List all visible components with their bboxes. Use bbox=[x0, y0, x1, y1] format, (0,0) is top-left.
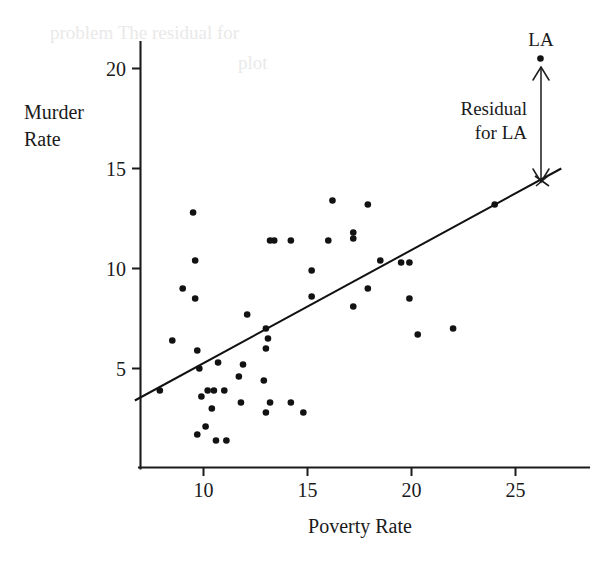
y-tick-label-20: 20 bbox=[106, 58, 126, 80]
data-point bbox=[537, 55, 544, 62]
data-point bbox=[325, 237, 332, 244]
data-point bbox=[265, 335, 272, 342]
data-point bbox=[288, 399, 295, 406]
y-tick-label-10: 10 bbox=[106, 258, 126, 280]
y-axis-title-line2: Rate bbox=[24, 128, 61, 150]
data-point bbox=[406, 259, 413, 266]
data-point bbox=[223, 437, 230, 444]
data-point bbox=[350, 235, 357, 242]
data-point bbox=[244, 311, 251, 318]
data-point bbox=[491, 201, 498, 208]
data-point bbox=[414, 331, 421, 338]
data-point bbox=[350, 303, 357, 310]
data-point bbox=[398, 259, 405, 266]
plot-canvas: 20 15 10 5 10 15 20 25 Poverty Rate Murd… bbox=[0, 0, 593, 562]
residual-label-line2: for LA bbox=[475, 122, 528, 143]
data-point bbox=[198, 393, 205, 400]
data-point bbox=[350, 229, 357, 236]
y-axis-title-line1: Murder bbox=[24, 101, 84, 123]
data-point bbox=[263, 345, 270, 352]
data-point bbox=[263, 325, 270, 332]
x-tick-label-20: 20 bbox=[402, 479, 422, 501]
data-point bbox=[215, 359, 222, 366]
data-point bbox=[406, 295, 413, 302]
x-tick-label-25: 25 bbox=[506, 479, 526, 501]
data-point bbox=[271, 237, 278, 244]
data-point bbox=[192, 257, 199, 264]
data-point bbox=[450, 325, 457, 332]
x-axis-title: Poverty Rate bbox=[308, 515, 412, 538]
data-point bbox=[300, 409, 307, 416]
data-point bbox=[192, 295, 199, 302]
data-point bbox=[240, 361, 247, 368]
y-tick-label-15: 15 bbox=[106, 158, 126, 180]
data-point bbox=[365, 201, 372, 208]
data-point bbox=[179, 285, 186, 292]
data-point bbox=[221, 387, 228, 394]
data-point bbox=[204, 387, 211, 394]
data-point bbox=[211, 387, 218, 394]
data-point bbox=[190, 209, 197, 216]
residual-label-line1: Residual bbox=[461, 98, 528, 119]
la-point-label: LA bbox=[528, 29, 554, 50]
scatterplot-figure: problem The residual for plot 20 15 10 5… bbox=[0, 0, 593, 562]
residual-arrow bbox=[533, 67, 549, 182]
data-point bbox=[169, 337, 176, 344]
data-point bbox=[329, 197, 336, 204]
data-point bbox=[194, 347, 201, 354]
data-point bbox=[288, 237, 295, 244]
data-point bbox=[261, 377, 268, 384]
y-tick-label-5: 5 bbox=[116, 358, 126, 380]
data-point bbox=[377, 257, 384, 264]
data-point bbox=[263, 409, 270, 416]
x-tick-label-15: 15 bbox=[298, 479, 318, 501]
data-point bbox=[196, 365, 203, 372]
data-point bbox=[194, 431, 201, 438]
data-point bbox=[202, 423, 209, 430]
data-point bbox=[236, 373, 243, 380]
x-tick-label-10: 10 bbox=[194, 479, 214, 501]
data-point bbox=[308, 293, 315, 300]
data-point bbox=[267, 399, 274, 406]
data-point bbox=[308, 267, 315, 274]
data-point bbox=[213, 437, 220, 444]
data-point bbox=[238, 399, 245, 406]
data-point bbox=[365, 285, 372, 292]
data-point bbox=[209, 405, 216, 412]
data-point bbox=[157, 387, 164, 394]
